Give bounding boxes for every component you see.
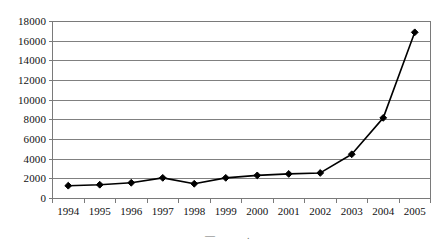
data-point-2005 bbox=[411, 29, 418, 36]
data-point-1999 bbox=[222, 174, 229, 181]
caption-fragment-right: . bbox=[247, 231, 250, 241]
x-tick-label-1998: 1998 bbox=[183, 205, 205, 218]
x-tick-label-1999: 1999 bbox=[215, 205, 237, 218]
series-markers bbox=[65, 29, 418, 189]
x-tick-label-1997: 1997 bbox=[152, 205, 174, 218]
data-point-2002 bbox=[317, 170, 324, 177]
data-point-1997 bbox=[159, 174, 166, 181]
x-tick-label-2004: 2004 bbox=[372, 205, 394, 218]
data-point-1998 bbox=[191, 180, 198, 187]
line-chart: 0200040006000800010000120001400016000180… bbox=[0, 0, 445, 241]
x-axis-ticks bbox=[53, 199, 431, 203]
x-tick-label-1995: 1995 bbox=[89, 205, 111, 218]
data-point-1994 bbox=[65, 182, 72, 189]
x-tick-label-2000: 2000 bbox=[246, 205, 268, 218]
x-tick-label-2001: 2001 bbox=[278, 205, 300, 218]
data-line bbox=[68, 32, 415, 185]
data-point-1996 bbox=[128, 179, 135, 186]
x-tick-label-2003: 2003 bbox=[341, 205, 363, 218]
grid-lines bbox=[53, 22, 431, 179]
x-tick-label-1994: 1994 bbox=[57, 205, 79, 218]
data-point-1995 bbox=[96, 181, 103, 188]
x-tick-label-1996: 1996 bbox=[120, 205, 142, 218]
x-tick-label-2005: 2005 bbox=[404, 205, 426, 218]
caption-fragment-strip: — . bbox=[0, 231, 445, 241]
x-tick-label-2002: 2002 bbox=[309, 205, 331, 218]
data-point-2001 bbox=[285, 171, 292, 178]
y-axis-ticks bbox=[49, 22, 53, 199]
data-point-2000 bbox=[254, 172, 261, 179]
caption-fragment-left: — bbox=[205, 231, 215, 241]
x-axis-tick-labels: 1994199519961997199819992000200120022003… bbox=[0, 205, 445, 223]
axis-lines bbox=[53, 22, 431, 199]
series-line bbox=[68, 32, 415, 185]
